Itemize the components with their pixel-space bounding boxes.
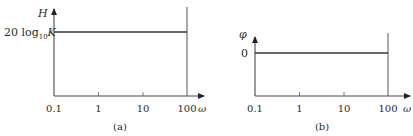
panel-b-x-tick-0.1: 0.1 [247,103,263,114]
panel-b-y-tick-label: 0 [241,47,248,60]
panel-b-phase-plot: φ 0 0.1 1 10 100 ω (b) [239,28,411,132]
panel-a-x-tick-10: 10 [137,103,150,114]
panel-a-x-label: ω [198,103,206,114]
panel-b-x-tick-1: 1 [296,103,302,114]
bode-plots: H 20 log10K 0.1 1 10 100 ω (a) φ 0 0.1 1… [0,0,413,136]
panel-a-x-tick-0.1: 0.1 [46,103,62,114]
panel-a-x-tick-1: 1 [95,103,101,114]
panel-b-y-label: φ [239,28,247,41]
panel-a-magnitude-plot: H 20 log10K 0.1 1 10 100 ω (a) [4,7,206,132]
panel-b-x-tick-100: 100 [378,103,397,114]
panel-b-x-tick-10: 10 [338,103,351,114]
panel-a-caption: (a) [113,121,127,132]
panel-a-y-tick-label: 20 log10K [4,26,57,41]
panel-a-y-label: H [37,7,48,20]
panel-a-x-tick-100: 100 [177,103,196,114]
panel-b-caption: (b) [315,121,329,132]
panel-b-x-label: ω [403,103,411,114]
